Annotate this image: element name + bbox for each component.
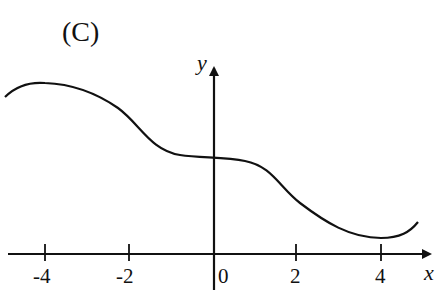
x-tick-label-2: 2 — [290, 264, 301, 289]
x-tick-label-4: 4 — [375, 264, 386, 289]
y-axis-label: y — [197, 50, 207, 76]
panel-label: (C) — [62, 16, 99, 48]
function-curve — [5, 83, 418, 238]
x-tick-label-0: 0 — [218, 264, 229, 289]
x-tick-label-neg4: -4 — [33, 264, 51, 289]
x-tick-label-neg2: -2 — [116, 264, 134, 289]
x-axis-label: x — [424, 260, 434, 286]
